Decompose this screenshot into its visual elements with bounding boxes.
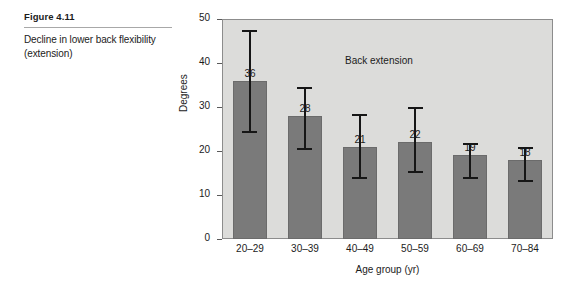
y-tick-label: 0 (182, 232, 210, 243)
y-tick-mark (217, 63, 222, 64)
bar-chart-figure: Degrees Age group (yr) Back extension 01… (0, 0, 580, 283)
y-tick-mark (217, 107, 222, 108)
error-bar-cap-upper (352, 114, 367, 116)
bar-value-label: 28 (285, 103, 325, 114)
x-tick-label: 60–69 (440, 243, 500, 254)
x-tick-label: 30–39 (275, 243, 335, 254)
error-bar-cap-lower (463, 177, 478, 179)
y-tick-mark (217, 151, 222, 152)
error-bar-stem (249, 30, 251, 131)
y-tick-mark (217, 195, 222, 196)
x-tick-label: 40–49 (330, 243, 390, 254)
error-bar-cap-lower (297, 148, 312, 150)
error-bar-stem (304, 87, 306, 148)
error-bar-cap-lower (352, 177, 367, 179)
x-tick-label: 50–59 (385, 243, 445, 254)
bar-value-label: 22 (395, 129, 435, 140)
y-tick-label: 30 (182, 100, 210, 111)
y-tick-mark (217, 19, 222, 20)
error-bar-cap-lower (242, 131, 257, 133)
bar-value-label: 21 (340, 134, 380, 145)
chart-annotation: Back extension (345, 55, 413, 66)
bar-value-label: 36 (230, 68, 270, 79)
error-bar-cap-lower (518, 180, 533, 182)
y-tick-label: 50 (182, 12, 210, 23)
y-tick-label: 20 (182, 144, 210, 155)
error-bar-cap-upper (242, 30, 257, 32)
error-bar-cap-upper (408, 107, 423, 109)
y-tick-mark (217, 239, 222, 240)
error-bar-stem (359, 114, 361, 178)
bar-value-label: 18 (505, 147, 545, 158)
x-tick-label: 20–29 (220, 243, 280, 254)
y-tick-label: 40 (182, 56, 210, 67)
plot-area (222, 19, 553, 239)
error-bar-cap-upper (297, 87, 312, 89)
x-axis-title: Age group (yr) (222, 264, 553, 275)
bar-value-label: 19 (450, 142, 490, 153)
y-tick-label: 10 (182, 188, 210, 199)
error-bar-cap-lower (408, 171, 423, 173)
x-tick-label: 70–84 (495, 243, 555, 254)
